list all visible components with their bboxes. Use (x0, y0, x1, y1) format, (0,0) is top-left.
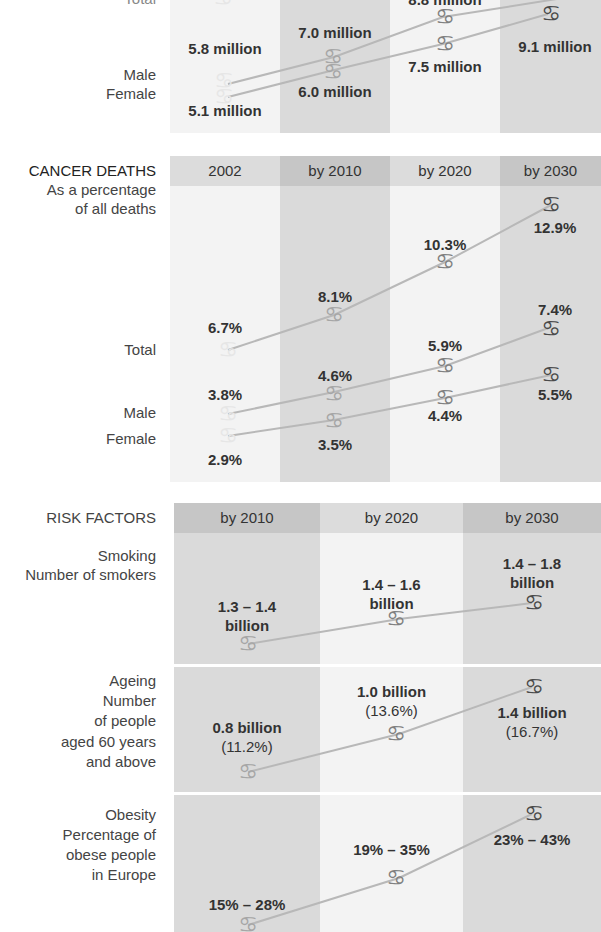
cancer-zodiac-icon: ♋ (541, 318, 561, 340)
cancer-zodiac-icon: ♋ (541, 194, 561, 216)
cancer-zodiac-icon: ♋ (324, 410, 344, 432)
cancer-deaths-title: CANCER DEATHS (29, 162, 156, 180)
column-header-2002: 2002 (170, 156, 280, 186)
value-line: (13.6%) (320, 701, 463, 720)
section-title: CANCER DEATHS (29, 162, 156, 179)
cancer-zodiac-icon: ♋ (238, 761, 258, 783)
cancer-zodiac-icon: ♋ (435, 251, 455, 273)
ageing-description-1: Number (103, 692, 156, 710)
cancer-zodiac-icon: ♋ (386, 867, 406, 889)
ageing-value-2010: 0.8 billion (11.2%) (174, 718, 320, 756)
value-line: 1.3 – 1.4 (174, 597, 320, 616)
cancer-zodiac-icon: ♋ (213, 0, 233, 9)
cancer-zodiac-icon: ♋ (541, 364, 561, 386)
cancer-zodiac-icon: ♋ (214, 86, 234, 108)
value-line: 1.0 billion (320, 682, 463, 701)
label-female: Female (106, 430, 156, 448)
value-female-2010: 3.5% (280, 435, 390, 454)
cancer-zodiac-icon: ♋ (238, 633, 258, 655)
smoking-value-2010: 1.3 – 1.4 billion (174, 597, 320, 635)
row-divider (174, 664, 601, 667)
value-female-2030: 5.5% (500, 385, 601, 404)
label-male: Male (123, 404, 156, 422)
cancer-zodiac-icon: ♋ (386, 723, 406, 745)
row-divider (174, 792, 601, 795)
label-female: Female (106, 85, 156, 103)
label-total: Total (124, 0, 156, 8)
risk-factors-title: RISK FACTORS (46, 509, 156, 527)
cancer-zodiac-icon: ♋ (386, 608, 406, 630)
column-header-2010: by 2010 (280, 156, 390, 186)
label-male: Male (123, 66, 156, 84)
value-line: 1.4 – 1.8 (463, 554, 601, 573)
obesity-value-2020: 19% – 35% (320, 840, 463, 859)
smoking-label: Smoking (98, 547, 156, 565)
column-header-2010: by 2010 (174, 503, 320, 533)
obesity-value-2030: 23% – 43% (463, 830, 601, 849)
ageing-description-4: and above (86, 753, 156, 771)
smoking-description: Number of smokers (25, 566, 156, 584)
cancer-zodiac-icon: ♋ (324, 383, 344, 405)
cancer-zodiac-icon: ♋ (524, 803, 544, 825)
ageing-value-2020: 1.0 billion (13.6%) (320, 682, 463, 720)
cancer-zodiac-icon: ♋ (218, 339, 238, 361)
cancer-zodiac-icon: ♋ (435, 355, 455, 377)
cancer-zodiac-icon: ♋ (524, 676, 544, 698)
value-female-2010: 6.0 million (280, 82, 390, 101)
obesity-label: Obesity (105, 806, 156, 824)
cancer-deaths-subtitle-2: of all deaths (75, 200, 156, 218)
ageing-value-2030: 1.4 billion (16.7%) (463, 703, 601, 741)
value-line: 1.4 – 1.6 (320, 575, 463, 594)
column-header-2030: by 2030 (500, 156, 601, 186)
column-2020 (390, 186, 500, 482)
value-line: (11.2%) (174, 737, 320, 756)
cancer-zodiac-icon: ♋ (541, 3, 561, 25)
ageing-label: Ageing (109, 672, 156, 690)
value-line: 0.8 billion (174, 718, 320, 737)
cancer-zodiac-icon: ♋ (238, 914, 258, 932)
label-total: Total (124, 341, 156, 359)
value-female-2002: 2.9% (170, 450, 280, 469)
cancer-zodiac-icon: ♋ (323, 61, 343, 83)
cancer-zodiac-icon: ♋ (218, 403, 238, 425)
value-total-2002: 6.7% (170, 318, 280, 337)
obesity-description-2: obese people (66, 846, 156, 864)
value-female-2020: 7.5 million (390, 57, 500, 76)
ageing-description-2: of people (94, 712, 156, 730)
cancer-deaths-subtitle-1: As a percentage (47, 181, 156, 199)
value-line: 1.4 billion (463, 703, 601, 722)
value-total-2030: 12.9% (500, 218, 601, 237)
value-line: (16.7%) (463, 722, 601, 741)
column-header-2020: by 2020 (390, 156, 500, 186)
value-male-2002: 5.8 million (170, 39, 280, 58)
cancer-zodiac-icon: ♋ (435, 387, 455, 409)
cancer-zodiac-icon: ♋ (324, 304, 344, 326)
cancer-zodiac-icon: ♋ (435, 6, 455, 28)
obesity-description-3: in Europe (92, 866, 156, 884)
cancer-zodiac-icon: ♋ (435, 33, 455, 55)
value-female-2030: 9.1 million (500, 37, 601, 56)
column-header-2020: by 2020 (320, 503, 463, 533)
cancer-zodiac-icon: ♋ (218, 425, 238, 447)
obesity-description-1: Percentage of (63, 826, 156, 844)
ageing-description-3: aged 60 years (61, 733, 156, 751)
value-male-2010: 7.0 million (280, 23, 390, 42)
column-header-2030: by 2030 (463, 503, 601, 533)
smoking-value-2030: 1.4 – 1.8 billion (463, 554, 601, 592)
cancer-zodiac-icon: ♋ (524, 592, 544, 614)
